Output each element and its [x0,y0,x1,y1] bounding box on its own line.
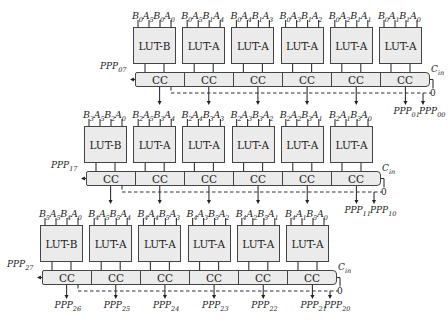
symbol: C [338,262,345,272]
symbol: B [257,208,264,219]
subscript: 4 [127,214,131,222]
subscript: 0 [122,115,126,123]
lut-input-labels: B4A5B5A4 [88,208,131,222]
subscript: 2 [269,115,273,123]
lut-input-labels: B0A3B1A2 [280,10,323,24]
partial-product-output: PPP25 [104,300,130,313]
symbol: B [181,10,188,21]
symbol: B [88,208,95,219]
symbol: B [329,109,336,120]
subscript: 3 [220,115,224,123]
symbol: A [192,10,199,21]
subscript: 25 [122,305,130,313]
lut-a-block: LUT-A [138,225,181,262]
carry-in-label: Cin [431,64,444,77]
lut-label: LUT-A [193,238,225,250]
subscript: 0 [417,16,421,24]
symbol: B [132,10,139,21]
lut-input-labels: B2A3B3A2 [231,109,274,123]
carry-out-label: PPP07 [100,61,126,74]
symbol: PPP [324,300,342,310]
subscript: in [345,267,351,275]
cc-cell: CC [185,73,234,86]
partial-product-output: PPP10 [370,205,396,218]
carry-chain: CCCCCCCCCCCC [42,270,337,285]
lut-input-labels: B4A2B5A1 [236,208,279,222]
symbol: PPP [251,300,269,310]
symbol: B [252,109,259,120]
symbol: A [120,208,127,219]
symbol: B [208,208,215,219]
carry-chain: CCCCCCCCCCCC [135,72,430,87]
symbol: C [382,163,389,173]
symbol: PPP [100,61,118,71]
lut-a-block: LUT-A [133,126,176,163]
lut-input-labels: B5A5B4A0 [39,208,82,222]
lut-a-block: LUT-A [188,225,231,262]
symbol: A [290,10,297,21]
lut-a-block: LUT-A [281,27,324,64]
subscript: in [438,69,444,77]
subscript: 0 [171,16,175,24]
symbol: PPP [7,259,25,269]
lut-input-labels: B0A1B1A0 [378,10,421,24]
symbol: A [71,208,78,219]
symbol: A [192,109,199,120]
lut-input-labels: B2A2B3A1 [280,109,323,123]
subscript: 10 [388,210,396,218]
lut-input-labels: B0A4B1A3 [230,10,273,24]
symbol: B [329,10,336,21]
carry-out-label: PPP17 [51,160,77,173]
subscript: 0 [368,115,372,123]
symbol: PPP [153,300,171,310]
lut-label: LUT-A [335,40,367,52]
partial-product-output: PPP26 [55,300,81,313]
lut-a-block: LUT-A [330,126,373,163]
lut-b-block: LUT-B [40,225,83,262]
carry-in-zero: 0 [381,187,387,197]
symbol: B [39,208,46,219]
partial-product-output: PPP24 [153,300,179,313]
partial-product-output: PPP00 [419,106,445,119]
lut-label: LUT-A [188,139,220,151]
symbol: B [301,109,308,120]
cc-cell: CC [283,73,332,86]
lut-input-labels: B0A5B0A0 [132,10,175,24]
symbol: A [361,10,368,21]
subscript: 17 [69,165,77,173]
symbol: A [312,109,319,120]
symbol: PPP [51,160,69,170]
symbol: PPP [55,300,73,310]
subscript: 2 [225,214,229,222]
lut-label: LUT-A [286,139,318,151]
symbol: B [285,208,292,219]
lut-a-block: LUT-A [237,225,280,262]
cc-cell: CC [136,172,185,185]
lut-label: LUT-A [237,139,269,151]
subscript: 20 [342,305,350,313]
cc-cell: CC [283,172,332,185]
partial-product-output: PPP01 [393,106,419,119]
carry-out-label: PPP27 [7,259,33,272]
carry-in-label: Cin [382,163,395,176]
symbol: A [115,109,122,120]
symbol: A [164,10,171,21]
lut-a-block: LUT-A [182,27,225,64]
partial-product-output: PPP21 [300,300,326,313]
lut-a-block: LUT-A [379,27,422,64]
subscript: 1 [368,16,372,24]
subscript: 26 [73,305,81,313]
symbol: PPP [370,205,388,215]
cc-cell: CC [381,73,429,86]
symbol: A [410,10,417,21]
symbol: A [213,10,220,21]
symbol: B [301,10,308,21]
subscript: 4 [171,115,175,123]
lut-label: LUT-A [335,139,367,151]
symbol: A [99,208,106,219]
subscript: 3 [269,16,273,24]
cc-cell: CC [239,271,288,284]
symbol: A [197,208,204,219]
symbol: PPP [393,106,411,116]
lut-input-labels: B2A1B3A0 [329,109,372,123]
